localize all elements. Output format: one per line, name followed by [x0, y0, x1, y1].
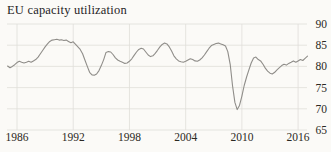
y-tick-label: 65 [316, 124, 328, 136]
x-tick-label: 1986 [6, 131, 29, 143]
y-tick-label: 80 [316, 60, 328, 72]
y-tick-label: 70 [316, 103, 328, 115]
x-tick-label: 2004 [174, 131, 197, 143]
chart-container: EU capacity utilization 1986199219982004… [0, 0, 331, 152]
y-tick-label: 85 [316, 39, 328, 51]
y-tick-label: 90 [316, 18, 328, 30]
x-tick-label: 1992 [62, 131, 85, 143]
x-tick-label: 1998 [118, 131, 141, 143]
plot-area: 198619921998200420102016657075808590 [0, 0, 331, 152]
series-line [8, 39, 308, 109]
x-tick-label: 2010 [230, 131, 253, 143]
x-tick-label: 2016 [287, 131, 310, 143]
y-tick-label: 75 [316, 82, 328, 94]
